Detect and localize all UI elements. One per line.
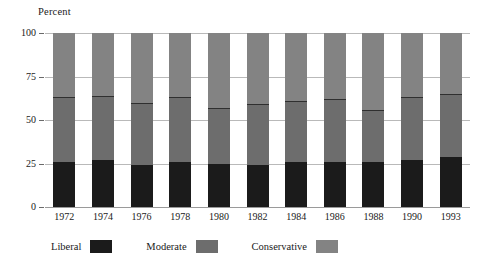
legend-swatch-conservative	[316, 240, 338, 253]
y-tick-0	[39, 207, 44, 208]
bar-slot-1986	[315, 33, 354, 207]
segment-liberal-1976[interactable]	[131, 165, 153, 207]
chart-legend: LiberalModerateConservative	[45, 238, 470, 254]
bar-1986[interactable]	[324, 33, 346, 207]
segment-conservative-1982[interactable]	[247, 33, 269, 104]
bar-slot-1972	[45, 33, 84, 207]
x-tick-label-1976: 1976	[122, 210, 161, 226]
bar-slot-1978	[161, 33, 200, 207]
segment-moderate-1980[interactable]	[208, 108, 230, 164]
y-tick-label-75: 75	[0, 72, 36, 82]
y-tick-75	[39, 77, 44, 78]
segment-conservative-1986[interactable]	[324, 33, 346, 99]
legend-label-liberal: Liberal	[51, 241, 81, 252]
segment-moderate-1974[interactable]	[92, 96, 114, 160]
legend-label-conservative: Conservative	[252, 241, 307, 252]
segment-liberal-1972[interactable]	[53, 162, 75, 207]
x-tick-label-1993: 1993	[431, 210, 470, 226]
x-tick-label-1984: 1984	[277, 210, 316, 226]
segment-liberal-1984[interactable]	[285, 162, 307, 207]
legend-item-conservative[interactable]: Conservative	[252, 240, 338, 253]
segment-liberal-1980[interactable]	[208, 164, 230, 208]
legend-item-moderate[interactable]: Moderate	[146, 240, 217, 253]
segment-moderate-1976[interactable]	[131, 103, 153, 166]
legend-swatch-moderate	[196, 240, 218, 253]
segment-conservative-1984[interactable]	[285, 33, 307, 101]
bar-slot-1984	[277, 33, 316, 207]
segment-conservative-1980[interactable]	[208, 33, 230, 108]
segment-liberal-1982[interactable]	[247, 165, 269, 207]
legend-swatch-liberal	[90, 240, 112, 253]
bar-slot-1974	[84, 33, 123, 207]
y-tick-25	[39, 164, 44, 165]
bar-1976[interactable]	[131, 33, 153, 207]
segment-conservative-1990[interactable]	[401, 33, 423, 97]
plot-area	[45, 33, 470, 207]
x-tick-label-1980: 1980	[200, 210, 239, 226]
segment-moderate-1978[interactable]	[169, 97, 191, 161]
segment-moderate-1993[interactable]	[440, 94, 462, 157]
segment-moderate-1986[interactable]	[324, 99, 346, 162]
bar-slot-1976	[122, 33, 161, 207]
segment-moderate-1990[interactable]	[401, 97, 423, 160]
segment-conservative-1972[interactable]	[53, 33, 75, 97]
x-tick-label-1974: 1974	[84, 210, 123, 226]
y-tick-100	[39, 33, 44, 34]
y-tick-label-25: 25	[0, 159, 36, 169]
segment-moderate-1982[interactable]	[247, 104, 269, 165]
bar-1974[interactable]	[92, 33, 114, 207]
y-tick-label-0: 0	[0, 202, 36, 212]
bar-slot-1980	[200, 33, 239, 207]
segment-liberal-1993[interactable]	[440, 157, 462, 207]
segment-conservative-1976[interactable]	[131, 33, 153, 103]
bar-slot-1990	[393, 33, 432, 207]
segment-conservative-1988[interactable]	[362, 33, 384, 110]
segment-conservative-1974[interactable]	[92, 33, 114, 96]
segment-moderate-1972[interactable]	[53, 97, 75, 161]
segment-liberal-1988[interactable]	[362, 162, 384, 207]
segment-liberal-1974[interactable]	[92, 160, 114, 207]
bar-slot-1993	[431, 33, 470, 207]
segment-liberal-1990[interactable]	[401, 160, 423, 207]
segment-conservative-1993[interactable]	[440, 33, 462, 94]
gridline-0	[45, 207, 470, 208]
bar-1993[interactable]	[440, 33, 462, 207]
bar-1982[interactable]	[247, 33, 269, 207]
y-axis-title: Percent	[38, 6, 71, 17]
legend-label-moderate: Moderate	[146, 241, 186, 252]
x-tick-label-1986: 1986	[315, 210, 354, 226]
x-axis-labels: 1972197419761978198019821984198619881990…	[45, 210, 470, 226]
bar-1980[interactable]	[208, 33, 230, 207]
y-tick-label-100: 100	[0, 28, 36, 38]
bar-group	[45, 33, 470, 207]
segment-liberal-1986[interactable]	[324, 162, 346, 207]
segment-moderate-1988[interactable]	[362, 110, 384, 162]
y-tick-50	[39, 120, 44, 121]
stacked-bar-chart: Percent 1007550250 197219741976197819801…	[0, 0, 478, 267]
x-tick-label-1988: 1988	[354, 210, 393, 226]
x-tick-label-1990: 1990	[393, 210, 432, 226]
segment-liberal-1978[interactable]	[169, 162, 191, 207]
segment-moderate-1984[interactable]	[285, 101, 307, 162]
bar-1984[interactable]	[285, 33, 307, 207]
bar-1990[interactable]	[401, 33, 423, 207]
bar-slot-1982	[238, 33, 277, 207]
x-tick-label-1982: 1982	[238, 210, 277, 226]
bar-1972[interactable]	[53, 33, 75, 207]
segment-conservative-1978[interactable]	[169, 33, 191, 97]
x-tick-label-1978: 1978	[161, 210, 200, 226]
bar-1978[interactable]	[169, 33, 191, 207]
bar-slot-1988	[354, 33, 393, 207]
bar-1988[interactable]	[362, 33, 384, 207]
legend-item-liberal[interactable]: Liberal	[51, 240, 112, 253]
x-tick-label-1972: 1972	[45, 210, 84, 226]
y-tick-label-50: 50	[0, 115, 36, 125]
